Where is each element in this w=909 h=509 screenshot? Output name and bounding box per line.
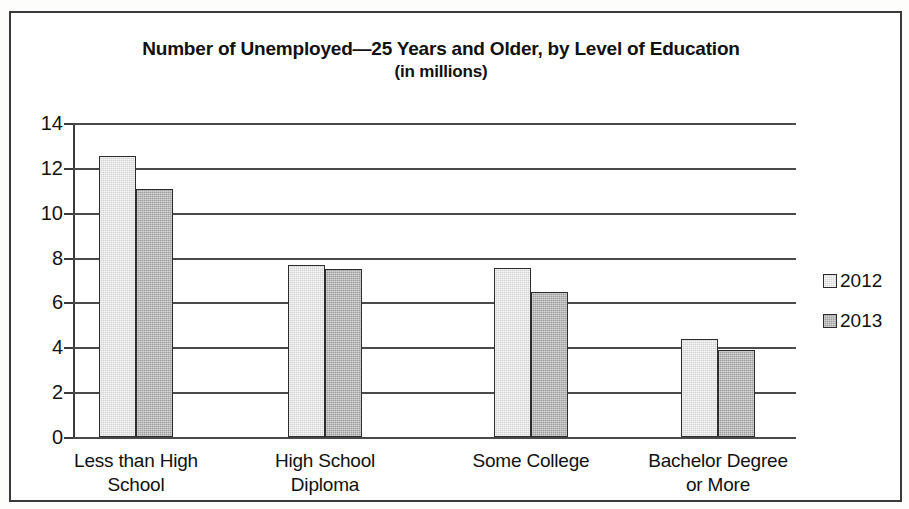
bar-2013-3: [531, 292, 568, 437]
y-axis-tick-8: [64, 258, 73, 260]
category-label-line: School: [51, 473, 221, 497]
category-label-line: Some College: [446, 449, 616, 473]
y-axis-tick-label-12: 12: [23, 158, 63, 178]
category-label-line: or More: [633, 473, 803, 497]
light-gray-swatch: [823, 274, 837, 288]
bar-2012-2: [288, 265, 325, 437]
gridline-10: [73, 213, 796, 215]
chart-figure: Number of Unemployed—25 Years and Older,…: [0, 0, 909, 509]
bar-2013-4: [718, 350, 755, 437]
y-axis-tick-0: [64, 437, 73, 439]
y-axis-tick-label-14: 14: [23, 113, 63, 133]
y-axis-tick-4: [64, 347, 73, 349]
legend-item-2012: 2012: [823, 271, 882, 290]
legend-item-2013: 2013: [823, 311, 882, 330]
dark-gray-swatch: [823, 314, 837, 328]
bar-2013-2: [325, 269, 362, 437]
category-label-line: Less than High: [51, 449, 221, 473]
x-axis-category-label-4: Bachelor Degreeor More: [633, 449, 803, 497]
x-axis-category-label-1: Less than HighSchool: [51, 449, 221, 497]
bar-2012-4: [681, 339, 718, 437]
category-label-line: Diploma: [240, 473, 410, 497]
y-axis-tick-6: [64, 302, 73, 304]
chart-subtitle: (in millions): [71, 60, 811, 83]
y-axis-tick-label-10: 10: [23, 203, 63, 223]
y-axis-tick-label-0: 0: [23, 427, 63, 447]
y-axis-labels: 14121086420: [19, 123, 63, 437]
category-label-line: Bachelor Degree: [633, 449, 803, 473]
gridline-6: [73, 302, 796, 304]
bar-2012-1: [99, 156, 136, 437]
category-label-line: High School: [240, 449, 410, 473]
y-axis-tick-label-6: 6: [23, 292, 63, 312]
y-axis-tick-label-4: 4: [23, 337, 63, 357]
y-axis-tick-2: [64, 392, 73, 394]
y-axis-tick-label-2: 2: [23, 382, 63, 402]
y-axis-tick-label-8: 8: [23, 248, 63, 268]
y-axis-tick-10: [64, 213, 73, 215]
y-axis-tick-14: [64, 123, 73, 125]
bar-2012-3: [494, 268, 531, 437]
chart-border-frame: Number of Unemployed—25 Years and Older,…: [9, 11, 902, 502]
chart-title: Number of Unemployed—25 Years and Older,…: [71, 37, 811, 60]
y-axis-line: [73, 123, 75, 437]
chart-legend: 20122013: [823, 271, 882, 351]
gridline-0: [73, 437, 796, 439]
legend-label-2012: 2012: [840, 271, 882, 290]
gridline-14: [73, 123, 796, 125]
x-axis-category-label-2: High SchoolDiploma: [240, 449, 410, 497]
bar-2013-1: [136, 189, 173, 437]
legend-label-2013: 2013: [840, 311, 882, 330]
y-axis-tick-12: [64, 168, 73, 170]
chart-title-block: Number of Unemployed—25 Years and Older,…: [71, 37, 811, 83]
x-axis-category-label-3: Some College: [446, 449, 616, 473]
gridline-12: [73, 168, 796, 170]
gridline-8: [73, 258, 796, 260]
plot-area: [73, 123, 796, 437]
